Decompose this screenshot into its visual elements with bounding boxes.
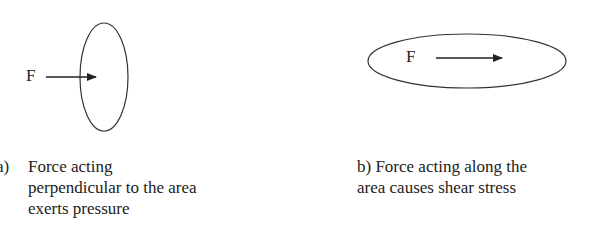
caption-a-label: a)	[0, 156, 9, 177]
caption-a: Force acting perpendicular to the area e…	[28, 156, 197, 219]
caption-b-line-2: area causes shear stress	[357, 177, 527, 198]
caption-a-line-1: Force acting	[28, 156, 197, 177]
caption-b-line-1: b) Force acting along the	[357, 156, 527, 177]
force-label-a: F	[26, 66, 35, 86]
force-label-b: F	[406, 47, 415, 67]
caption-a-line-2: perpendicular to the area	[28, 177, 197, 198]
caption-a-line-3: exerts pressure	[28, 198, 197, 219]
area-ellipse-horizontal	[368, 34, 566, 88]
caption-b: b) Force acting along the area causes sh…	[357, 156, 527, 198]
